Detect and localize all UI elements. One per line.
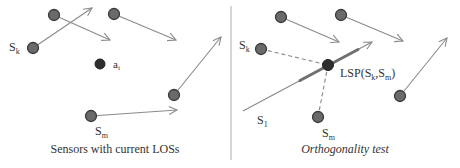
sensor-node <box>336 10 347 21</box>
label-sk: Sk <box>9 40 20 56</box>
sensor-node <box>276 12 287 23</box>
right-caption: Orthogonality test <box>301 142 389 156</box>
sensor-node-sm <box>86 111 97 122</box>
los-arrow <box>341 15 403 41</box>
diagram-canvas: Sk ai Sm Sensors with current LOSs Sk LS… <box>0 0 460 168</box>
left-panel: Sk ai Sm Sensors with current LOSs <box>9 8 221 156</box>
dashed-projection-sk <box>261 49 328 65</box>
los-arrow <box>174 37 221 95</box>
label-sk: Sk <box>239 38 250 54</box>
los-arrow <box>114 14 176 40</box>
los-arrow <box>91 110 177 116</box>
label-s1: S1 <box>257 113 268 129</box>
sensor-node <box>395 91 406 102</box>
sensor-node <box>109 9 120 20</box>
lsp-point <box>323 60 334 71</box>
label-lsp: LSP(Sk,Sm) <box>340 66 395 82</box>
right-panel: Sk LSP(Sk,Sm) S1 Sm Orthogonality test <box>239 10 447 157</box>
label-ai: ai <box>113 58 120 72</box>
dashed-projection-sm <box>318 65 328 117</box>
sensor-node <box>49 10 60 21</box>
sensor-node-sk <box>256 44 267 55</box>
sensor-node <box>169 90 180 101</box>
sensor-node-sm <box>313 112 324 123</box>
label-sm: Sm <box>95 124 109 140</box>
los-arrow <box>400 38 447 96</box>
sensor-node-sk <box>28 43 39 54</box>
los-arrow <box>281 17 339 42</box>
left-caption: Sensors with current LOSs <box>51 142 180 156</box>
target-node-ai <box>95 59 105 69</box>
label-sm: Sm <box>322 126 336 142</box>
